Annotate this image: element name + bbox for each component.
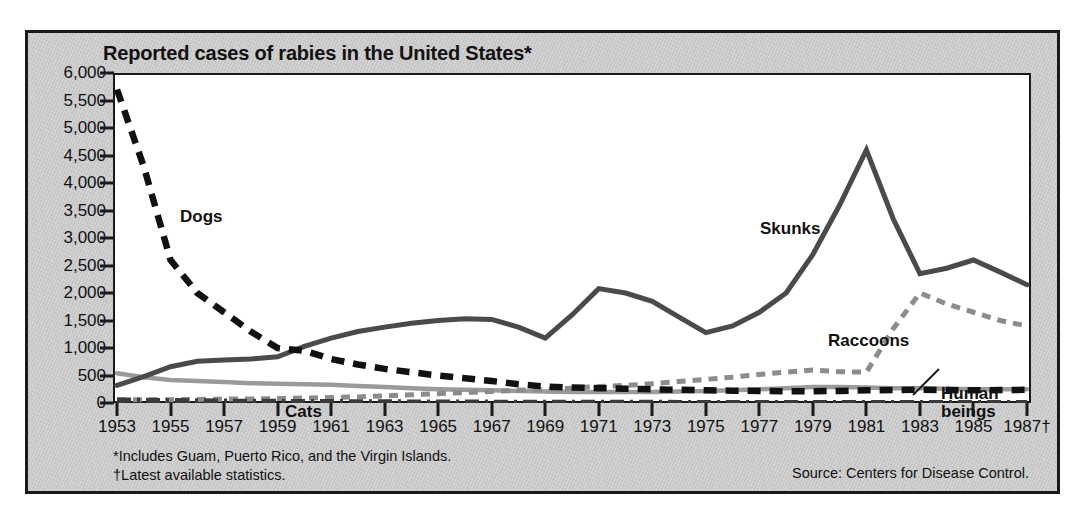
- x-axis-tick-mark: [223, 403, 226, 416]
- x-axis-tick-mark: [651, 403, 654, 416]
- y-axis-tick-mark: [100, 319, 114, 322]
- plot-wrapper: [113, 73, 1031, 403]
- y-axis-tick-mark: [100, 154, 114, 157]
- x-axis-tick-label: 1969: [526, 417, 564, 437]
- x-axis-tick-label: 1977: [740, 417, 778, 437]
- x-axis-tick-mark: [116, 403, 119, 416]
- x-axis-tick-mark: [597, 403, 600, 416]
- y-axis-tick-mark: [100, 99, 114, 102]
- page-title: Reported cases of rabies in the United S…: [103, 42, 532, 65]
- x-axis-tick-mark: [758, 403, 761, 416]
- y-axis-tick-mark: [100, 292, 114, 295]
- x-axis-tick-label: 1965: [419, 417, 457, 437]
- y-axis-tick-mark: [100, 72, 114, 75]
- y-axis-tick-mark: [100, 347, 114, 350]
- series-label-cats: Cats: [285, 403, 322, 421]
- x-axis-tick-mark: [1026, 403, 1029, 416]
- series-lines: [113, 73, 1031, 403]
- y-axis-tick-marks: [100, 73, 114, 403]
- footnote-latest: †Latest available statistics.: [113, 466, 451, 485]
- series-line-skunks: [117, 150, 1027, 385]
- x-axis-tick-label: 1973: [633, 417, 671, 437]
- series-label-dogs: Dogs: [180, 208, 223, 226]
- y-axis-tick-mark: [100, 264, 114, 267]
- x-axis-tick-mark: [918, 403, 921, 416]
- series-label-human-beings: Humanbeings: [941, 385, 999, 421]
- series-label-skunks: Skunks: [760, 220, 820, 238]
- x-axis-tick-label: 1987†: [1003, 417, 1050, 437]
- x-axis-tick-mark: [544, 403, 547, 416]
- series-label-raccoons: Raccoons: [828, 332, 909, 350]
- x-axis-tick-labels: 1953195519571959196119631965196719691971…: [113, 417, 1031, 441]
- x-axis-tick-mark: [490, 403, 493, 416]
- y-axis-tick-mark: [100, 237, 114, 240]
- y-axis-tick-mark: [100, 182, 114, 185]
- footnotes: *Includes Guam, Puerto Rico, and the Vir…: [113, 447, 451, 486]
- y-axis-tick-mark: [100, 402, 114, 405]
- footnote-includes: *Includes Guam, Puerto Rico, and the Vir…: [113, 447, 451, 466]
- x-axis-tick-mark: [383, 403, 386, 416]
- x-axis-tick-label: 1981: [847, 417, 885, 437]
- x-axis-tick-mark: [276, 403, 279, 416]
- x-axis-tick-mark: [704, 403, 707, 416]
- y-axis-tick-labels: 6,0005,5005,0004,5004,0003,5003,0002,500…: [38, 73, 106, 403]
- x-axis-tick-mark: [330, 403, 333, 416]
- y-axis-tick-mark: [100, 127, 114, 130]
- x-axis-tick-mark: [437, 403, 440, 416]
- y-axis-tick-mark: [100, 374, 114, 377]
- x-axis-tick-label: 1963: [366, 417, 404, 437]
- x-axis-tick-label: 1957: [205, 417, 243, 437]
- source-note: Source: Centers for Disease Control.: [792, 465, 1029, 481]
- x-axis-tick-mark: [169, 403, 172, 416]
- x-axis-tick-label: 1967: [473, 417, 511, 437]
- x-axis-tick-label: 1979: [794, 417, 832, 437]
- x-axis-tick-label: 1975: [687, 417, 725, 437]
- x-axis-tick-label: 1983: [901, 417, 939, 437]
- x-axis-tick-label: 1955: [152, 417, 190, 437]
- x-axis-tick-label: 1971: [580, 417, 618, 437]
- x-axis-tick-mark: [811, 403, 814, 416]
- x-axis-tick-mark: [865, 403, 868, 416]
- x-axis-tick-label: 1953: [98, 417, 136, 437]
- y-axis-tick-mark: [100, 209, 114, 212]
- chart-figure: Reported cases of rabies in the United S…: [25, 30, 1060, 494]
- x-axis-tick-marks: [113, 403, 1031, 416]
